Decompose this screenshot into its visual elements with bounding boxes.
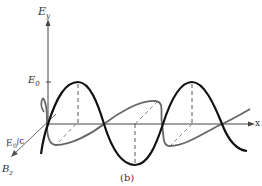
ey-axis-label: Ey [38,6,50,20]
bz-axis-label: Bz [2,164,13,177]
em-wave-diagram [0,0,262,186]
x-axis-arrow-icon [248,122,255,127]
figure-caption: (b) [120,173,134,183]
e0-label: E0 [28,75,40,88]
x-axis-label: x [255,119,260,128]
magnetic-wave [43,98,250,146]
b-dash-2 [135,102,157,124]
